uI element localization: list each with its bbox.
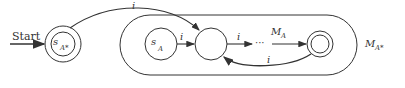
start-label: Start [12, 30, 41, 43]
outer-machine-sub: A* [374, 44, 384, 52]
start-state: s A* [45, 26, 81, 62]
middle-state [195, 28, 227, 60]
machine-start-state: s A [145, 28, 177, 60]
edge-final-back-label: i [267, 54, 270, 65]
start-state-name: s [53, 36, 58, 47]
machine-start-name: s [151, 36, 156, 47]
edge-middle-to-dots-label: i [237, 31, 240, 42]
ellipsis: ··· [255, 37, 265, 48]
edge-start-to-middle-label: i [132, 0, 135, 11]
inner-machine-sub: A [280, 32, 286, 40]
start-state-sub: A* [59, 44, 69, 52]
machine-start-sub: A [157, 45, 163, 53]
final-state [307, 31, 333, 57]
nfa-star-construction-diagram: Start s A* i s A i i ··· M A i M A* [0, 0, 405, 88]
edge-sa-to-middle-label: i [180, 31, 183, 42]
